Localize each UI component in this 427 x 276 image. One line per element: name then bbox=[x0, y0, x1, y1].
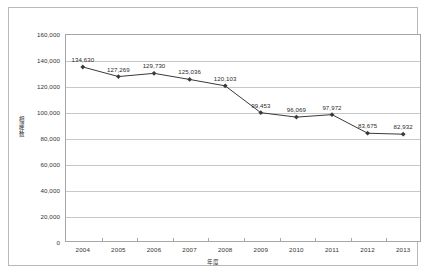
data-point-marker bbox=[401, 132, 406, 137]
y-axis-tick-label: 40,000 bbox=[40, 187, 60, 194]
x-axis-tick-label: 2011 bbox=[325, 246, 339, 253]
y-axis-tick-label: 60,000 bbox=[40, 161, 60, 168]
data-point-label: 120,103 bbox=[214, 75, 237, 82]
data-point-label: 97,972 bbox=[322, 104, 341, 111]
y-axis-tick-labels: 020,00040,00060,00080,000100,000120,0001… bbox=[9, 8, 65, 244]
data-point-marker bbox=[80, 65, 85, 70]
y-axis-title: 相談件数 bbox=[19, 116, 24, 136]
y-axis-tick-label: 20,000 bbox=[40, 213, 60, 220]
x-axis-tick-label: 2013 bbox=[396, 246, 411, 253]
page-border: 020,00040,00060,00080,000100,000120,0001… bbox=[8, 7, 418, 266]
data-point-label: 96,069 bbox=[287, 106, 306, 113]
data-point-marker bbox=[294, 115, 299, 120]
y-axis-tick-label: 100,000 bbox=[37, 109, 60, 116]
data-point-label: 82,932 bbox=[394, 123, 413, 130]
y-axis-tick-label: 0 bbox=[56, 239, 60, 246]
x-axis-tick-label: 2012 bbox=[360, 246, 375, 253]
data-point-label: 127,269 bbox=[107, 66, 130, 73]
data-point-label: 83,675 bbox=[358, 122, 377, 129]
series-line bbox=[83, 67, 403, 134]
x-axis-tick-label: 2008 bbox=[218, 246, 233, 253]
data-point-label: 134,630 bbox=[71, 56, 94, 63]
data-point-marker bbox=[330, 112, 335, 117]
x-axis-tick-label: 2010 bbox=[289, 246, 304, 253]
x-axis-tick-label: 2009 bbox=[254, 246, 269, 253]
data-point-label: 99,453 bbox=[251, 102, 270, 109]
y-axis-tick-label: 80,000 bbox=[40, 135, 60, 142]
chart-area: 020,00040,00060,00080,000100,000120,0001… bbox=[9, 8, 417, 265]
x-axis-tick-label: 2005 bbox=[111, 246, 126, 253]
x-axis-tick-label: 2007 bbox=[182, 246, 197, 253]
data-point-label: 129,730 bbox=[143, 62, 166, 69]
x-axis-tick-label: 2004 bbox=[76, 246, 91, 253]
data-point-marker bbox=[152, 71, 157, 76]
data-point-marker bbox=[365, 131, 370, 136]
data-point-marker bbox=[116, 74, 121, 79]
x-axis-tick-labels: 2004200520062007200820092010201120122013 bbox=[65, 246, 421, 258]
y-axis-tick-label: 140,000 bbox=[37, 57, 60, 64]
data-point-marker bbox=[187, 77, 192, 82]
y-axis-tick-label: 120,000 bbox=[37, 83, 60, 90]
x-axis-tick-label: 2006 bbox=[147, 246, 162, 253]
y-axis-tick-label: 160,000 bbox=[37, 31, 60, 38]
x-axis-title: 年度 bbox=[9, 258, 417, 266]
data-point-label: 125,036 bbox=[178, 68, 201, 75]
chart-page: 020,00040,00060,00080,000100,000120,0001… bbox=[0, 0, 427, 276]
